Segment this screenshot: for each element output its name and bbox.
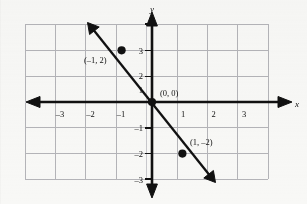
line-arrow-lower xyxy=(204,171,216,183)
point-label-origin: (0, 0) xyxy=(160,88,179,98)
x-axis-label: x xyxy=(294,99,299,109)
axes xyxy=(26,12,292,198)
point-marker xyxy=(148,98,156,106)
x-tick-label: –1 xyxy=(116,109,126,119)
graph-figure: x y –3 –2 –1 1 2 3 3 2 1 –1 –2 –3 xyxy=(0,0,307,204)
x-tick-label: –2 xyxy=(85,109,95,119)
point-marker xyxy=(178,150,186,158)
x-tick-label: –3 xyxy=(55,109,65,119)
x-axis-arrow-left xyxy=(26,97,40,108)
y-tick-label: 2 xyxy=(139,71,143,81)
y-tick-label: –2 xyxy=(134,149,144,159)
y-axis-label: y xyxy=(149,4,154,14)
y-tick-label: –3 xyxy=(134,175,144,185)
y-tick-label: 3 xyxy=(139,46,143,56)
x-tick-labels: –3 –2 –1 1 2 3 xyxy=(55,109,246,119)
x-tick-label: 1 xyxy=(181,109,185,119)
x-tick-label: 3 xyxy=(242,109,246,119)
y-axis-arrow-down xyxy=(147,184,158,198)
coordinate-plane-svg: x y –3 –2 –1 1 2 3 3 2 1 –1 –2 –3 xyxy=(0,0,307,204)
x-tick-label: 2 xyxy=(211,109,215,119)
y-tick-label: –1 xyxy=(134,123,144,133)
y-tick-labels: 3 2 1 –1 –2 –3 xyxy=(134,46,144,185)
point-label-neg1-2: (–1, 2) xyxy=(84,55,107,65)
point-label-1-neg2: (1, –2) xyxy=(190,137,213,147)
x-axis-arrow-right xyxy=(278,97,292,108)
point-marker xyxy=(118,46,126,54)
